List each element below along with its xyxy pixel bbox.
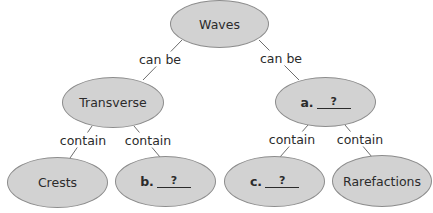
- link-label-transverse-b: contain: [124, 133, 172, 148]
- node-b-prefix: b.: [140, 174, 154, 189]
- node-c-prefix: c.: [250, 174, 262, 189]
- link-label-waves-a: can be: [259, 51, 303, 66]
- node-a-blank: a. ?: [275, 77, 376, 127]
- node-waves-text: Waves: [199, 17, 240, 32]
- node-a-answer-blank: ?: [317, 96, 351, 109]
- node-b-blank: b. ?: [115, 156, 216, 207]
- node-waves: Waves: [170, 0, 269, 48]
- node-rarefactions: Rarefactions: [332, 155, 432, 207]
- node-c-blank: c. ?: [224, 156, 325, 207]
- node-rarefactions-text: Rarefactions: [343, 174, 421, 189]
- node-transverse-text: Transverse: [79, 95, 146, 110]
- node-crests: Crests: [7, 157, 108, 208]
- link-label-waves-transverse: can be: [138, 52, 182, 67]
- node-transverse: Transverse: [62, 77, 164, 128]
- node-a-prefix: a.: [300, 95, 313, 110]
- node-b-answer-blank: ?: [157, 175, 191, 188]
- node-c-answer-blank: ?: [265, 175, 299, 188]
- node-crests-text: Crests: [38, 175, 77, 190]
- link-label-a-rarefactions: contain: [336, 132, 384, 147]
- link-label-transverse-crests: contain: [59, 133, 107, 148]
- link-label-a-c: contain: [268, 132, 316, 147]
